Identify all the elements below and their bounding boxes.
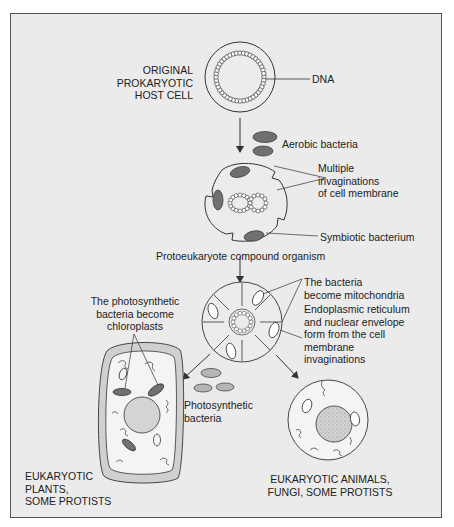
label-aerobic-bacteria: Aerobic bacteria [282, 138, 358, 151]
animal-cell [288, 380, 368, 460]
early-eukaryote-cell [202, 279, 302, 362]
label-protoeukaryote: Protoeukaryote compound organism [156, 250, 325, 263]
label-chloroplasts: The photosynthetic bacteria become chlor… [80, 295, 190, 333]
label-dna: DNA [312, 73, 334, 86]
label-plants: EUKARYOTIC PLANTS, SOME PROTISTS [25, 470, 111, 508]
protoeukaryote-cell [205, 163, 326, 242]
host-cell [205, 42, 310, 112]
arrow-to-animal [276, 355, 298, 378]
label-invaginations: Multiple invaginations of cell membrane [318, 162, 399, 200]
label-animals: EUKARYOTIC ANIMALS, FUNGI, SOME PROTISTS [260, 473, 400, 498]
label-symbiotic-bacterium: Symbiotic bacterium [320, 231, 415, 244]
label-host-cell: ORIGINAL PROKARYOTIC HOST CELL [100, 64, 193, 102]
plant-cell [98, 334, 183, 483]
aerobic-bacteria [253, 132, 277, 157]
label-mitochondria: The bacteria become mitochondria [304, 276, 404, 301]
diagram-artwork [0, 0, 454, 527]
label-er-nuclear: Endoplasmic reticulum and nuclear envelo… [304, 303, 410, 366]
photosynthetic-bacteria [194, 369, 234, 393]
label-photosynthetic-bacteria: Photosynthetic bacteria [184, 399, 253, 424]
